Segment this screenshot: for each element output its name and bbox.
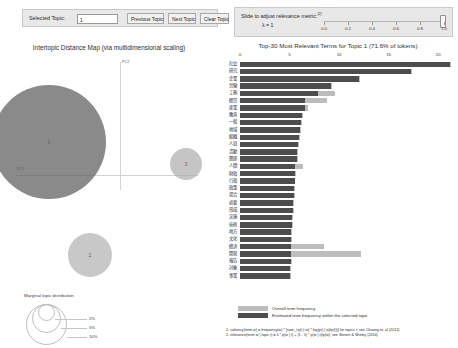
term-label[interactable]: 経営 [218,98,238,105]
lambda-tick-mark [420,22,421,25]
selected-topic-input[interactable]: 1 [77,14,118,24]
term-bar-row[interactable]: 企業 [218,76,458,83]
bar-topic-frequency [240,251,291,256]
term-label[interactable]: 産業 [218,105,238,112]
term-bar-row[interactable]: 労働 [218,83,458,90]
legend-size-label-2pct: 2% [89,316,95,321]
term-bar-zone [240,134,458,141]
term-label[interactable]: 企業 [218,76,238,83]
term-bar-row[interactable]: 行政 [218,178,458,185]
term-label[interactable]: 社会 [218,61,238,68]
relevance-footnote-marker: (2) [317,12,321,16]
term-bar-row[interactable]: 産業 [218,105,458,112]
term-bar-row[interactable]: 報告 [218,258,458,265]
term-bar-row[interactable]: 工務 [218,90,458,97]
term-label[interactable]: 報告 [218,258,238,265]
bar-topic-frequency [240,62,450,67]
bar-topic-frequency [240,215,292,220]
term-label[interactable]: 一般 [218,119,238,126]
term-label[interactable]: 開発 [218,251,238,258]
intertopic-distance-map: Intertopic Distance Map (via multidimens… [0,40,218,313]
topic-bubble-2[interactable]: 2 [68,233,112,277]
term-bar-zone [240,127,458,134]
term-label[interactable]: 研究 [218,68,238,75]
term-bar-row[interactable]: 人員 [218,141,458,148]
x-axis-tick-label: 0 [239,52,241,57]
relevance-metric-text: Slide to adjust relevance metric: [241,13,317,19]
topic-bubble-1[interactable]: 1 [0,85,106,199]
lambda-slider-track[interactable] [324,21,444,22]
term-label[interactable]: 政策 [218,185,238,192]
term-bar-row[interactable]: 文化 [218,236,458,243]
term-label[interactable]: 地域 [218,127,238,134]
term-bar-row[interactable]: 一般 [218,119,458,126]
term-label[interactable]: 経済 [218,244,238,251]
term-bar-row[interactable]: 開発 [218,251,458,258]
term-bar-row[interactable]: 形成 [218,207,458,214]
term-label[interactable]: 行政 [218,178,238,185]
bar-topic-frequency [240,113,302,118]
term-label[interactable]: 人間 [218,163,238,170]
term-bar-row[interactable]: 研究 [218,68,458,75]
term-label[interactable]: 文化 [218,236,238,243]
barchart-plot-area: 社会研究企業労働工務経営産業教育一般地域組織人員活動関係人間財政行政政策場合必要… [218,61,458,283]
topic-bubble-3[interactable]: 3 [170,148,202,180]
barchart-title: Top-30 Most Relevant Terms for Topic 1 (… [218,42,458,49]
term-bar-row[interactable]: 地方 [218,229,458,236]
legend-label: Estimated term frequency within the sele… [272,313,368,318]
selected-topic-label: Selected Topic: [29,15,65,21]
bar-topic-frequency [240,142,298,147]
legend-label: Overall term frequency [272,306,315,311]
term-bar-row[interactable]: 経営 [218,98,458,105]
term-label[interactable]: 対象 [218,265,238,272]
term-bar-row[interactable]: 対象 [218,265,458,272]
term-bar-row[interactable]: 教育 [218,112,458,119]
term-label[interactable]: 工務 [218,90,238,97]
clear-topic-button[interactable]: Clear Topic [200,13,229,24]
term-bar-row[interactable]: 関係 [218,156,458,163]
bar-topic-frequency [240,193,294,198]
term-label[interactable]: 実施 [218,214,238,221]
bar-topic-frequency [240,135,299,140]
term-bar-row[interactable]: 活動 [218,149,458,156]
term-label[interactable]: 事業 [218,273,238,280]
term-label[interactable]: 活動 [218,149,238,156]
term-bar-row[interactable]: 政策 [218,185,458,192]
next-topic-button[interactable]: Next Topic [168,13,196,24]
bar-topic-frequency [240,186,294,191]
term-label[interactable]: 労働 [218,83,238,90]
term-label[interactable]: 地方 [218,229,238,236]
lambda-tick-mark [372,22,373,25]
lambda-tick-label: 0.4 [369,26,375,31]
legend-leader-line-small [55,319,87,320]
term-bar-row[interactable]: 組織 [218,134,458,141]
term-label[interactable]: 技術 [218,222,238,229]
term-label[interactable]: 場合 [218,192,238,199]
term-bar-row[interactable]: 必要 [218,200,458,207]
term-bar-zone [240,229,458,236]
term-label[interactable]: 財政 [218,171,238,178]
term-bar-row[interactable]: 事業 [218,273,458,280]
term-bar-row[interactable]: 社会 [218,61,458,68]
term-bar-row[interactable]: 場合 [218,192,458,199]
term-label[interactable]: 教育 [218,112,238,119]
term-bar-zone [240,200,458,207]
previous-topic-button[interactable]: Previous Topic [127,13,164,24]
marginal-distribution-title: Marginal topic distribution [24,293,74,298]
topic-selector-panel: Selected Topic: 1 Previous Topic Next To… [22,9,218,27]
term-label[interactable]: 組織 [218,134,238,141]
term-label[interactable]: 必要 [218,200,238,207]
term-label[interactable]: 人員 [218,141,238,148]
term-label[interactable]: 関係 [218,156,238,163]
term-bar-zone [240,76,458,83]
term-bar-row[interactable]: 人間 [218,163,458,170]
term-bar-row[interactable]: 技術 [218,222,458,229]
term-label[interactable]: 形成 [218,207,238,214]
barchart-legend: Overall term frequencyEstimated term fre… [238,306,458,322]
legend-size-label-10pct: 10% [89,334,97,339]
term-bar-row[interactable]: 地域 [218,127,458,134]
term-bar-zone [240,192,458,199]
term-bar-row[interactable]: 実施 [218,214,458,221]
term-bar-row[interactable]: 経済 [218,244,458,251]
term-bar-row[interactable]: 財政 [218,171,458,178]
